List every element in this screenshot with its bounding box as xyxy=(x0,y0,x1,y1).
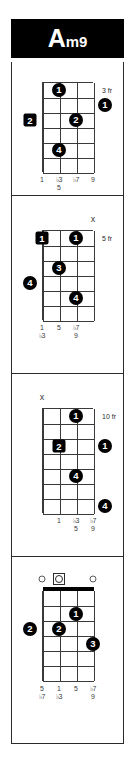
fret-position-label: 3 fr xyxy=(102,87,112,94)
interval-label: 1♭3 xyxy=(39,324,46,340)
finger-dot-1: 1 xyxy=(52,83,66,97)
fret-line xyxy=(43,499,94,500)
fret-line xyxy=(43,514,94,515)
chord-root: A xyxy=(48,24,66,52)
interval-text: ♭3 xyxy=(73,517,80,525)
fretboard-grid xyxy=(42,230,93,320)
string-line xyxy=(60,591,61,681)
fret-line xyxy=(43,484,94,485)
string-line xyxy=(60,231,61,321)
interval-text: 9 xyxy=(90,525,97,533)
interval-text: 5 xyxy=(57,324,61,332)
interval-text: 5 xyxy=(56,184,63,192)
interval-text: 9 xyxy=(91,176,95,184)
finger-dot-4: 4 xyxy=(23,276,37,290)
chord-diagram-1: 3 fr112241♭35♭79 xyxy=(11,62,124,196)
interval-text: 9 xyxy=(90,693,97,701)
interval-label: ♭35 xyxy=(73,517,80,533)
interval-label: ♭79 xyxy=(73,324,80,340)
finger-dot-1: 1 xyxy=(98,439,112,453)
interval-label: 1 xyxy=(57,517,61,525)
interval-text: ♭7 xyxy=(73,176,80,184)
interval-label: 5 xyxy=(57,324,61,332)
fret-line xyxy=(43,291,94,292)
fret-line xyxy=(43,439,94,440)
fret-line xyxy=(43,158,94,159)
fret-line xyxy=(43,143,94,144)
fret-line xyxy=(43,469,94,470)
fretboard-grid xyxy=(42,408,93,513)
nut-bar xyxy=(43,587,94,591)
fret-position-label: 5 fr xyxy=(102,235,112,242)
interval-label: 9 xyxy=(91,176,95,184)
open-string-marker xyxy=(39,576,46,583)
fret-line xyxy=(43,128,94,129)
interval-label: ♭7 xyxy=(73,176,80,184)
finger-dot-4: 4 xyxy=(98,499,112,513)
string-line xyxy=(94,409,95,514)
interval-text: ♭3 xyxy=(56,176,63,184)
interval-text: ♭3 xyxy=(39,332,46,340)
interval-text: 5 xyxy=(73,525,80,533)
muted-string-marker: x xyxy=(40,393,45,402)
string-line xyxy=(60,83,61,173)
fret-line xyxy=(43,636,94,637)
fret-line xyxy=(43,173,94,174)
interval-text: ♭7 xyxy=(39,693,46,701)
interval-text: 1 xyxy=(39,324,46,332)
open-string-marker xyxy=(90,576,97,583)
fret-line xyxy=(43,681,94,682)
fret-line xyxy=(43,261,94,262)
root-open-string-marker xyxy=(53,573,65,585)
fret-line xyxy=(43,424,94,425)
diagram-inner-2: 5 frx113441♭35♭79 xyxy=(11,196,124,373)
string-line xyxy=(77,231,78,321)
fret-line xyxy=(43,606,94,607)
string-line xyxy=(77,409,78,514)
chord-title-bar: Am9 xyxy=(11,19,124,58)
finger-dot-1: 1 xyxy=(98,98,112,112)
finger-dot-1: 1 xyxy=(69,409,83,423)
interval-label: 1♭3 xyxy=(56,685,63,701)
chord-diagram-4: 12235♭71♭35♭79 xyxy=(11,557,124,744)
finger-dot-3: 3 xyxy=(52,261,66,275)
interval-label: 5 xyxy=(74,685,78,693)
interval-text: 1 xyxy=(40,176,44,184)
fret-line xyxy=(43,306,94,307)
chord-diagram-3: 10 frx121441♭35♭79 xyxy=(11,374,124,557)
string-line xyxy=(94,83,95,173)
page-title: Am9 xyxy=(48,26,88,51)
finger-dot-1: 1 xyxy=(36,231,49,244)
finger-dot-4: 4 xyxy=(69,291,83,305)
finger-dot-1: 1 xyxy=(69,607,83,621)
muted-string-marker: x xyxy=(91,215,96,224)
string-line xyxy=(94,231,95,321)
string-line xyxy=(77,591,78,681)
fret-line xyxy=(43,621,94,622)
finger-dot-2: 2 xyxy=(52,622,66,636)
finger-dot-2: 2 xyxy=(69,113,83,127)
finger-dot-4: 4 xyxy=(69,469,83,483)
fret-position-label: 10 fr xyxy=(102,413,116,420)
interval-text: ♭7 xyxy=(90,517,97,525)
finger-dot-1: 1 xyxy=(69,231,83,245)
interval-label: ♭79 xyxy=(90,685,97,701)
finger-dot-2: 2 xyxy=(24,113,37,126)
string-line xyxy=(43,409,44,514)
fret-line xyxy=(43,113,94,114)
interval-label: ♭79 xyxy=(90,517,97,533)
string-line xyxy=(43,231,44,321)
fret-line xyxy=(43,651,94,652)
finger-dot-2: 2 xyxy=(53,439,66,452)
diagram-inner-4: 12235♭71♭35♭79 xyxy=(11,557,124,744)
interval-text: 5 xyxy=(74,685,78,693)
diagram-inner-1: 3 fr112241♭35♭79 xyxy=(11,62,124,195)
finger-dot-4: 4 xyxy=(52,143,66,157)
fret-line xyxy=(43,454,94,455)
chord-chart-page: Am9 3 fr112241♭35♭795 frx113441♭35♭7910 … xyxy=(0,0,140,760)
interval-label: 5♭7 xyxy=(39,685,46,701)
fret-line xyxy=(43,276,94,277)
chord-diagram-2: 5 frx113441♭35♭79 xyxy=(11,196,124,374)
fret-line xyxy=(43,246,94,247)
string-line xyxy=(43,83,44,173)
